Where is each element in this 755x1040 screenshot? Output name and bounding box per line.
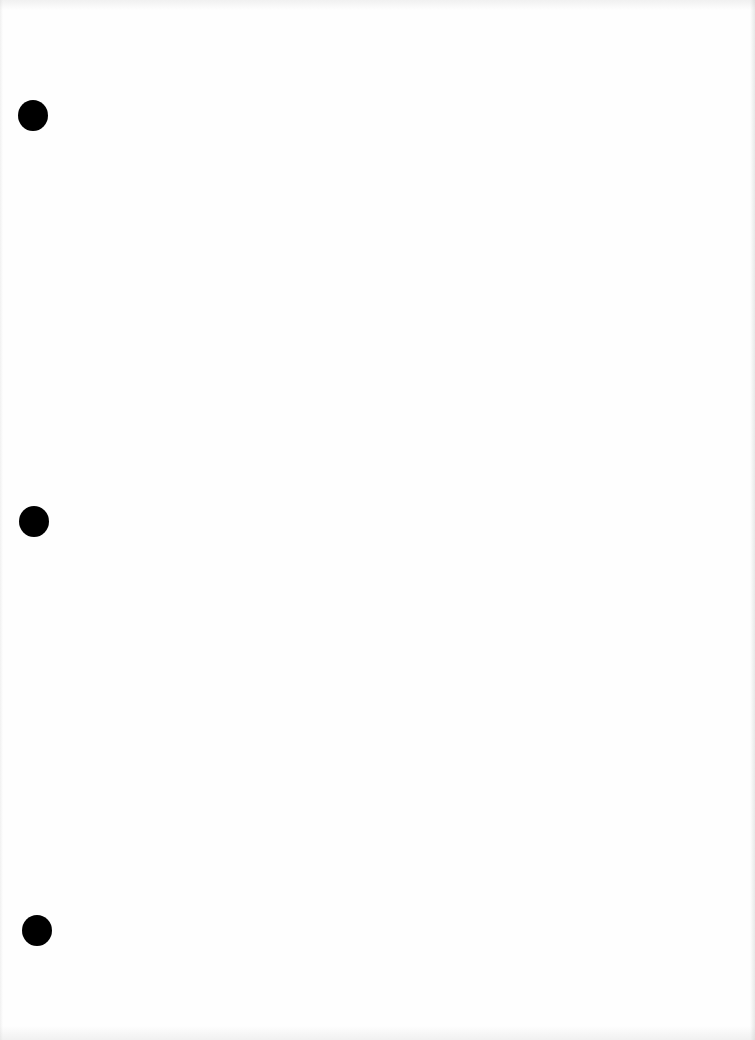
blank-page (0, 0, 755, 1040)
scan-edge-shadow-right (750, 0, 755, 1040)
punch-hole-bottom (22, 915, 52, 946)
punch-hole-middle (19, 506, 49, 537)
punch-hole-top (18, 100, 48, 131)
scan-edge-shadow-top (0, 0, 755, 10)
scan-edge-shadow-bottom (0, 1026, 755, 1040)
scan-edge-shadow-left (0, 0, 3, 1040)
